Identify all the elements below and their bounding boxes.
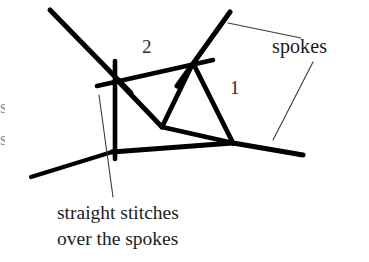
spokes-group — [31, 10, 303, 177]
spokes-label: spokes — [272, 36, 327, 58]
caption-line-2: over the spokes — [57, 226, 179, 252]
caption-block: straight stitches over the spokes — [57, 200, 179, 251]
lower-long-spoke-right — [233, 143, 303, 155]
lower-long-spoke-mid — [112, 143, 233, 152]
diagram-figure: s s spokes 2 1 straight stitches over th… — [0, 0, 369, 262]
center-to-lower-right-stitch — [162, 127, 233, 143]
stitches-caption-leader — [99, 95, 113, 197]
left-to-center-stitch — [118, 81, 162, 127]
lower-long-spoke-left — [31, 152, 112, 177]
cropped-text-fragment-bottom: s — [0, 128, 5, 150]
stitch-number-2-label: 2 — [142, 37, 152, 58]
right-to-center-stitch — [162, 67, 191, 127]
caption-line-1: straight stitches — [57, 200, 179, 226]
spokes-leader-lower — [273, 62, 313, 140]
right-node-descender-stitch — [195, 67, 233, 143]
stitch-number-1-label: 1 — [230, 78, 240, 99]
cropped-text-fragment-top: s — [0, 96, 5, 118]
